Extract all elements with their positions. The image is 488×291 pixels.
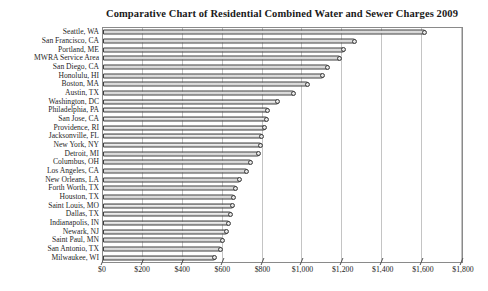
water-sewer-charges-figure: Comparative Chart of Residential Combine…	[0, 0, 488, 291]
bar	[103, 151, 260, 156]
bar-track	[103, 37, 462, 46]
category-label: New York, NY	[0, 141, 103, 149]
bar-track	[103, 54, 462, 63]
x-axis-tick-label: $800	[255, 265, 271, 274]
bar-track	[103, 201, 462, 210]
bar	[103, 221, 230, 226]
bar-row: Milwaukee, WI	[0, 253, 462, 262]
bar	[103, 255, 216, 260]
category-label: Los Angeles, CA	[0, 167, 103, 175]
x-axis: $0$200$400$600$800$1,000$1,200$1,400$1,6…	[102, 265, 463, 279]
bar-track	[103, 141, 462, 150]
bar-track	[103, 115, 462, 124]
bar	[103, 73, 324, 78]
bar	[103, 91, 295, 96]
category-label: Austin, TX	[0, 89, 103, 97]
bar-track	[103, 149, 462, 158]
bar	[103, 247, 222, 252]
category-label: San Jose, CA	[0, 115, 103, 123]
bar-track	[103, 106, 462, 115]
bar	[103, 212, 232, 217]
bar-track	[103, 193, 462, 202]
category-label: San Francisco, CA	[0, 37, 103, 45]
bar	[103, 195, 235, 200]
bar-track	[103, 89, 462, 98]
x-axis-tick-label: $1,200	[332, 265, 353, 274]
bar	[103, 30, 426, 35]
bar-track	[103, 132, 462, 141]
bar	[103, 177, 241, 182]
bar-track	[103, 210, 462, 219]
category-label: Indianapolis, IN	[0, 219, 103, 227]
bar	[103, 238, 224, 243]
x-axis-tick-label: $1,800	[452, 265, 473, 274]
bar-track	[103, 184, 462, 193]
bar	[103, 39, 356, 44]
bar	[103, 160, 252, 165]
bar-track	[103, 28, 462, 37]
bar-track	[103, 245, 462, 254]
bar-track	[103, 167, 462, 176]
chart-title: Comparative Chart of Residential Combine…	[96, 8, 468, 19]
x-axis-tick-label: $200	[134, 265, 150, 274]
bar-track	[103, 63, 462, 72]
bar	[103, 56, 341, 61]
bar-track	[103, 227, 462, 236]
category-label: San Antonio, TX	[0, 245, 103, 253]
bar	[103, 65, 329, 70]
bar	[103, 99, 279, 104]
bar	[103, 125, 266, 130]
bar-track	[103, 45, 462, 54]
bar-track	[103, 253, 462, 262]
bar-track	[103, 219, 462, 228]
bar	[103, 82, 309, 87]
bar-rows: Seattle, WASan Francisco, CAPortland, ME…	[0, 28, 462, 262]
x-axis-tick-label: $0	[98, 265, 106, 274]
bar-track	[103, 158, 462, 167]
bar-track	[103, 97, 462, 106]
x-axis-tick-label: $1,600	[412, 265, 433, 274]
bar-track	[103, 71, 462, 80]
bar	[103, 203, 234, 208]
x-axis-tick-label: $1,400	[372, 265, 393, 274]
bar	[103, 47, 345, 52]
bar-track	[103, 236, 462, 245]
category-label: Houston, TX	[0, 193, 103, 201]
bar	[103, 186, 237, 191]
bar-track	[103, 123, 462, 132]
bar	[103, 169, 248, 174]
x-axis-tick-label: $1,000	[292, 265, 313, 274]
x-axis-tick-label: $400	[174, 265, 190, 274]
bar	[103, 117, 268, 122]
bar	[103, 108, 269, 113]
x-axis-tick-label: $600	[215, 265, 231, 274]
bar-track	[103, 80, 462, 89]
bar	[103, 134, 263, 139]
category-label: San Diego, CA	[0, 63, 103, 71]
bar-track	[103, 175, 462, 184]
bar	[103, 143, 262, 148]
category-label: Milwaukee, WI	[0, 254, 103, 262]
bar	[103, 229, 228, 234]
